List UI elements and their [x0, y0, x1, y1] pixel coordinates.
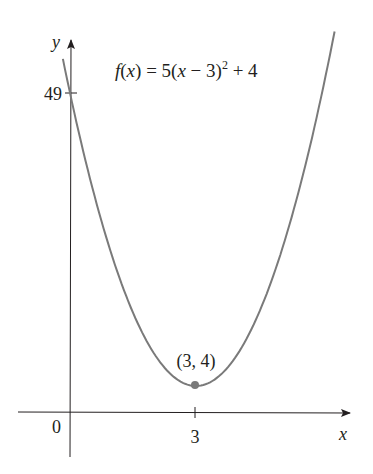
y-tick-label-49: 49	[44, 84, 62, 104]
x-axis-label: x	[338, 424, 347, 444]
parabola-curve	[63, 32, 335, 387]
origin-label: 0	[52, 417, 61, 437]
y-axis	[70, 40, 71, 457]
x-axis	[18, 412, 350, 413]
function-label: f(x) = 5(x − 3)2 + 4	[115, 58, 258, 82]
parabola-chart: y 49 0 3 x (3, 4) f(x) = 5(x − 3)2 + 4	[0, 0, 373, 474]
vertex-label: (3, 4)	[177, 351, 216, 372]
vertex-point	[191, 381, 199, 389]
y-axis-label: y	[50, 32, 60, 52]
x-tick-label-3: 3	[191, 427, 200, 447]
